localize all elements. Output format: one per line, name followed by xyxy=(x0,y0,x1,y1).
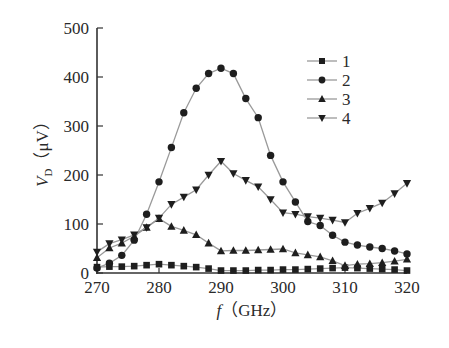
square-marker xyxy=(329,265,336,272)
circle-marker xyxy=(366,243,373,250)
data-series xyxy=(93,64,411,273)
series-line xyxy=(97,68,407,268)
series-line xyxy=(97,161,407,252)
legend-label: 4 xyxy=(342,109,351,128)
triangle-up-marker xyxy=(205,239,213,247)
series-2 xyxy=(93,64,410,271)
line-chart: 0100200300400500270280290300310320 1234 … xyxy=(0,0,449,348)
legend-item-2: 2 xyxy=(307,71,351,90)
circle-marker xyxy=(242,95,249,102)
circle-marker xyxy=(106,260,113,267)
legend-item-3: 3 xyxy=(307,90,351,109)
x-tick-label: 300 xyxy=(270,278,296,297)
square-marker xyxy=(143,262,150,269)
triangle-down-marker xyxy=(180,194,188,202)
square-marker xyxy=(280,266,287,273)
square-marker xyxy=(404,267,411,274)
circle-marker xyxy=(317,222,324,229)
series-4 xyxy=(93,158,411,256)
square-marker xyxy=(243,267,250,274)
circle-marker xyxy=(279,178,286,185)
triangle-down-marker xyxy=(378,200,386,208)
circle-marker xyxy=(118,252,125,259)
circle-marker xyxy=(255,114,262,121)
y-tick-label: 200 xyxy=(64,166,90,185)
y-tick-label: 400 xyxy=(64,68,90,87)
triangle-down-marker xyxy=(192,186,200,194)
circle-marker xyxy=(379,245,386,252)
triangle-down-marker xyxy=(391,190,399,198)
circle-marker xyxy=(292,198,299,205)
triangle-up-marker xyxy=(167,222,175,230)
square-marker xyxy=(267,267,274,274)
legend-item-4: 4 xyxy=(307,109,351,128)
triangle-down-marker xyxy=(353,210,361,218)
square-marker xyxy=(305,266,312,273)
axes: 0100200300400500270280290300310320 xyxy=(64,19,420,297)
square-marker xyxy=(193,264,200,271)
circle-marker xyxy=(267,152,274,159)
circle-marker xyxy=(205,70,212,77)
y-axis-label: VD（μV） xyxy=(33,113,54,187)
square-marker xyxy=(119,263,126,270)
square-marker xyxy=(230,267,237,274)
y-tick-label: 100 xyxy=(64,215,90,234)
legend-label: 1 xyxy=(342,52,351,71)
square-marker xyxy=(317,265,324,272)
square-marker xyxy=(156,261,163,268)
y-tick-label: 300 xyxy=(64,117,90,136)
square-marker xyxy=(379,266,386,273)
triangle-down-marker xyxy=(229,170,237,178)
series-1 xyxy=(94,261,411,274)
square-marker xyxy=(292,266,299,273)
circle-marker xyxy=(217,64,224,71)
square-marker xyxy=(168,262,175,269)
x-tick-label: 280 xyxy=(146,278,172,297)
circle-marker xyxy=(329,232,336,239)
circle-marker xyxy=(155,178,162,185)
circle-marker xyxy=(143,211,150,218)
legend: 1234 xyxy=(307,52,351,128)
legend-item-1: 1 xyxy=(307,52,351,71)
x-axis-label: f（GHz） xyxy=(217,301,288,320)
y-tick-label: 500 xyxy=(64,19,90,38)
triangle-down-marker xyxy=(341,219,349,227)
legend-label: 3 xyxy=(342,90,351,109)
x-tick-label: 270 xyxy=(84,278,110,297)
circle-marker xyxy=(354,241,361,248)
square-marker xyxy=(391,266,398,273)
circle-marker xyxy=(180,109,187,116)
x-tick-label: 310 xyxy=(332,278,358,297)
circle-marker xyxy=(230,70,237,77)
square-marker xyxy=(131,263,138,270)
x-tick-label: 290 xyxy=(208,278,234,297)
circle-marker xyxy=(341,238,348,245)
circle-marker xyxy=(93,264,100,271)
triangle-down-marker xyxy=(242,177,250,185)
x-tick-label: 320 xyxy=(394,278,420,297)
series-3 xyxy=(93,214,411,269)
legend-label: 2 xyxy=(342,71,351,90)
circle-marker xyxy=(193,85,200,92)
square-marker xyxy=(218,267,225,274)
circle-marker xyxy=(391,247,398,254)
square-marker xyxy=(181,263,188,270)
square-marker xyxy=(319,58,325,64)
square-marker xyxy=(255,267,262,274)
circle-marker xyxy=(168,144,175,151)
circle-marker xyxy=(319,77,326,84)
square-marker xyxy=(205,265,212,272)
